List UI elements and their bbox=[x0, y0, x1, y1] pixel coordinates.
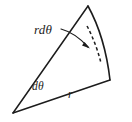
outer-arc bbox=[88, 6, 110, 80]
leader-arrowhead bbox=[82, 42, 90, 49]
radius-label: r bbox=[68, 88, 73, 100]
lower-radius-line bbox=[13, 80, 110, 113]
arc-length-label: rdθ bbox=[34, 23, 52, 36]
sector-diagram: rdθ dθ r bbox=[0, 0, 132, 122]
diagram-canvas bbox=[0, 0, 132, 122]
angle-label: dθ bbox=[32, 81, 44, 93]
